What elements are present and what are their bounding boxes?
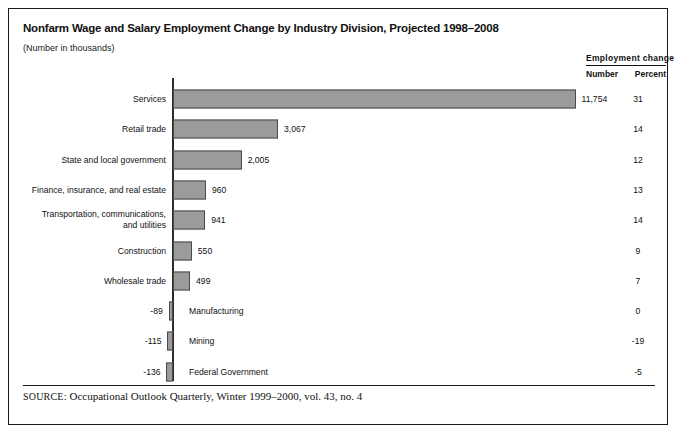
bar: [167, 332, 173, 351]
percent-value: -19: [625, 336, 651, 346]
category-label: Finance, insurance, and real estate: [0, 184, 166, 195]
percent-value: 14: [625, 124, 651, 134]
chart-row: Federal Government-136-5: [9, 357, 669, 387]
bar-value-label: -136: [122, 367, 160, 377]
category-label: Mining: [189, 336, 439, 347]
percent-value: 13: [625, 185, 651, 195]
bar-value-label: -89: [125, 306, 163, 316]
bar-value-label: 3,067: [284, 124, 306, 134]
percent-value: 7: [625, 276, 651, 286]
category-label: Transportation, communications, and util…: [0, 209, 166, 231]
category-label: Retail trade: [0, 124, 166, 135]
category-label: Construction: [0, 245, 166, 256]
chart-row: Transportation, communications, and util…: [9, 205, 669, 235]
bar: [173, 271, 190, 290]
bar-value-label: 2,005: [248, 155, 270, 165]
source-label: SOURCE: [23, 391, 64, 402]
chart-row: State and local government2,00512: [9, 145, 669, 175]
source-note: SOURCE: Occupational Outlook Quarterly, …: [23, 390, 362, 402]
chart-row: Retail trade3,06714: [9, 114, 669, 144]
bar-value-label: 11,754: [582, 94, 608, 104]
chart-row: Wholesale trade4997: [9, 266, 669, 296]
plot-area: Services11,75431Retail trade3,06714State…: [9, 9, 669, 426]
category-label: State and local government: [0, 154, 166, 165]
bar: [169, 302, 173, 321]
bar: [173, 211, 205, 230]
bar: [173, 241, 192, 260]
source-citation: : Occupational Outlook Quarterly, Winter…: [64, 390, 363, 402]
bar-value-label: -115: [123, 336, 161, 346]
percent-value: -5: [625, 367, 651, 377]
category-label: Manufacturing: [189, 306, 439, 317]
percent-value: 9: [625, 246, 651, 256]
percent-value: 14: [625, 215, 651, 225]
bar: [173, 180, 206, 199]
bar: [166, 362, 173, 381]
source-divider: [23, 385, 655, 386]
bar-value-label: 941: [211, 215, 225, 225]
bar: [173, 90, 576, 109]
chart-row: Manufacturing-890: [9, 296, 669, 326]
chart-row: Construction5509: [9, 236, 669, 266]
category-label: Federal Government: [189, 366, 439, 377]
category-label: Services: [0, 94, 166, 105]
chart-row: Finance, insurance, and real estate96013: [9, 175, 669, 205]
bar-value-label: 499: [196, 276, 210, 286]
chart-row: Mining-115-19: [9, 326, 669, 356]
category-label: Wholesale trade: [0, 275, 166, 286]
percent-value: 31: [625, 94, 651, 104]
chart-row: Services11,75431: [9, 84, 669, 114]
bar-value-label: 960: [212, 185, 226, 195]
bar-value-label: 550: [198, 246, 212, 256]
percent-value: 12: [625, 155, 651, 165]
chart-figure: Nonfarm Wage and Salary Employment Chang…: [8, 8, 668, 425]
bar: [173, 150, 242, 169]
bar: [173, 120, 278, 139]
percent-value: 0: [625, 306, 651, 316]
